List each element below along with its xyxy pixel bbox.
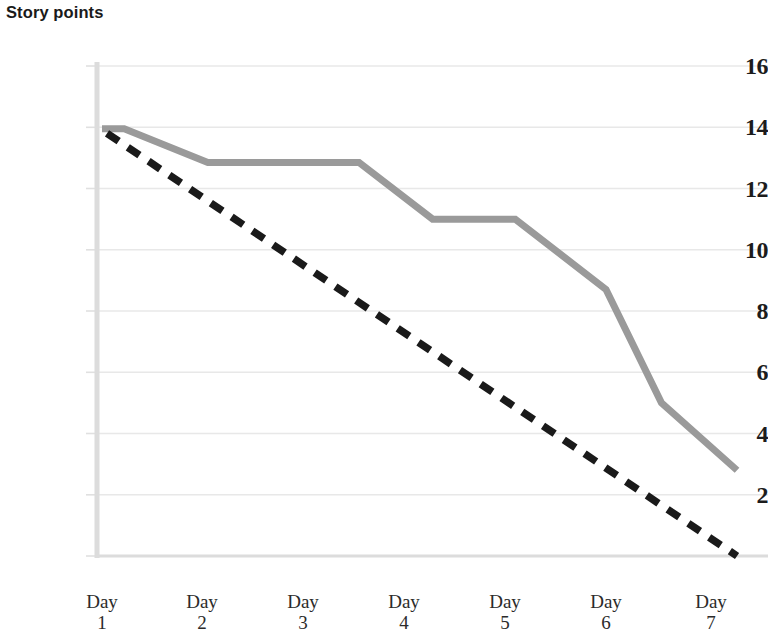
x-axis-label-day-4: Day 4 xyxy=(349,591,459,634)
x-axis-label-day-1-num: 1 xyxy=(47,612,157,633)
x-axis-label-day-3-num: 3 xyxy=(248,612,358,633)
y-axis-label-2: 2 xyxy=(692,483,768,507)
series-actual-line xyxy=(102,129,737,470)
series-ideal-line xyxy=(107,133,737,556)
y-axis-label-6: 6 xyxy=(692,360,768,384)
gridlines-horizontal xyxy=(97,66,768,495)
y-axis-label-4: 4 xyxy=(692,422,768,446)
x-axis-label-day-4-word: Day xyxy=(349,591,459,612)
x-axis-label-day-5-word: Day xyxy=(450,591,560,612)
x-axis-label-day-4-num: 4 xyxy=(349,612,459,633)
y-axis-label-12: 12 xyxy=(692,177,768,201)
x-axis-label-day-2: Day 2 xyxy=(147,591,257,634)
x-axis-label-day-2-word: Day xyxy=(147,591,257,612)
x-axis-label-day-7-num: 7 xyxy=(656,612,766,633)
y-axis-label-10: 10 xyxy=(692,238,768,262)
x-axis-label-day-6-num: 6 xyxy=(551,612,661,633)
y-axis-label-8: 8 xyxy=(692,299,768,323)
x-axis-label-day-5: Day 5 xyxy=(450,591,560,634)
x-axis-label-day-5-num: 5 xyxy=(450,612,560,633)
x-axis-label-day-7-word: Day xyxy=(656,591,766,612)
x-axis-label-day-2-num: 2 xyxy=(147,612,257,633)
x-axis-label-day-1-word: Day xyxy=(47,591,157,612)
x-axis-label-day-6: Day 6 xyxy=(551,591,661,634)
x-axis-label-day-6-word: Day xyxy=(551,591,661,612)
x-axis-label-day-7: Day 7 xyxy=(656,591,766,634)
x-axis-label-day-1: Day 1 xyxy=(47,591,157,634)
y-axis-label-16: 16 xyxy=(692,54,768,78)
plot-area xyxy=(0,0,768,641)
burndown-chart: Story points xyxy=(0,0,768,641)
x-axis-label-day-3-word: Day xyxy=(248,591,358,612)
y-axis-label-14: 14 xyxy=(692,115,768,139)
x-axis-label-day-3: Day 3 xyxy=(248,591,358,634)
